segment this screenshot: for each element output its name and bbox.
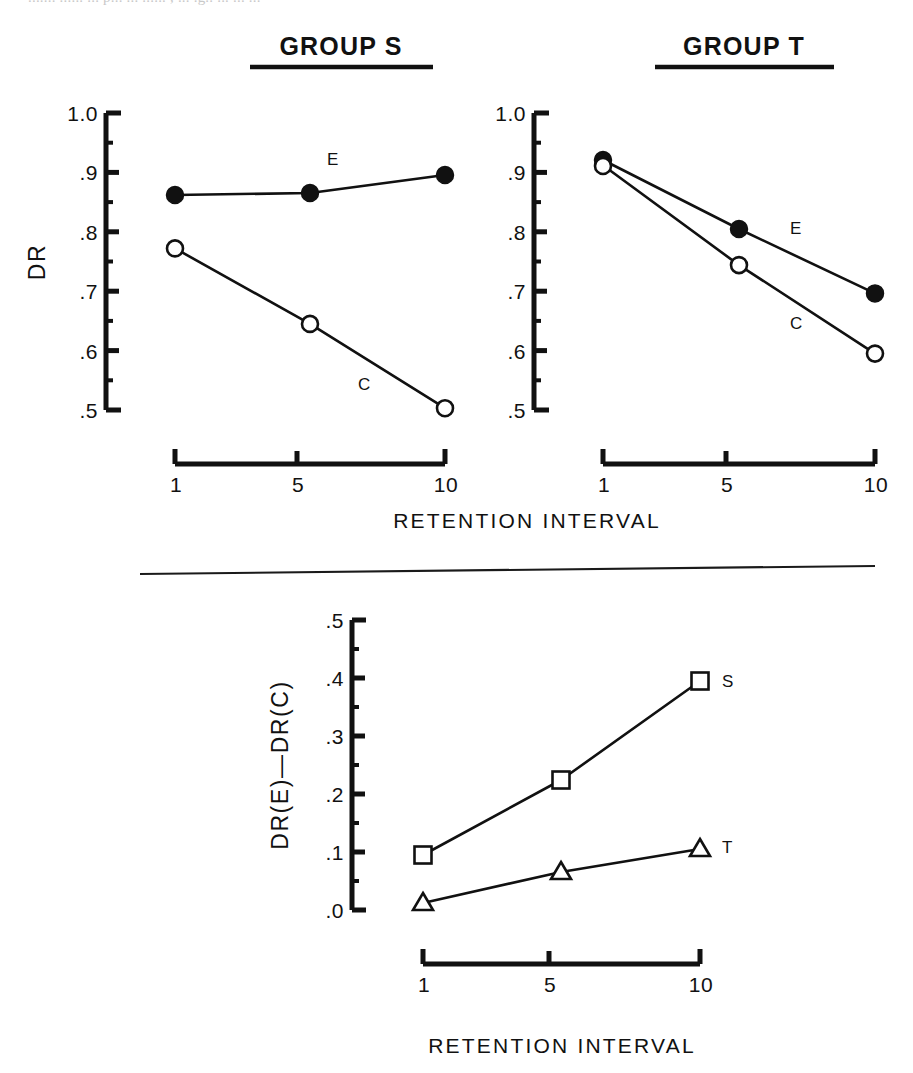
series-markers-e-group-t	[595, 152, 884, 302]
series-label-t-difference: T	[722, 838, 732, 857]
x-tick-label: 5	[721, 473, 733, 496]
data-point-marker	[437, 400, 453, 416]
series-line-s-difference	[423, 681, 700, 855]
y-tick-label: .3	[325, 725, 344, 748]
x-tick-label: 1	[598, 473, 610, 496]
x-axis-label-difference: RETENTION INTERVAL	[428, 1034, 696, 1057]
y-tick-label: .0	[325, 899, 344, 922]
data-point-marker	[731, 221, 748, 238]
y-tick-label: .5	[507, 399, 526, 422]
y-tick-label: .6	[507, 340, 526, 363]
x-tick-label: 1	[418, 973, 430, 996]
data-point-marker	[302, 316, 318, 332]
x-tick-label: 10	[434, 473, 458, 496]
y-tick-label: .2	[325, 783, 344, 806]
y-tick-label: .8	[79, 221, 98, 244]
x-axis-spine-group-t	[603, 449, 875, 464]
series-label-s-difference: S	[722, 672, 733, 691]
data-point-marker	[302, 185, 319, 202]
y-tick-label: .5	[325, 609, 344, 632]
figure-canvas: GROUP S 1.0 .9 .8 .7 .6 .5 DR	[0, 0, 913, 1073]
data-point-marker	[167, 240, 183, 256]
x-axis-spine-group-s	[175, 449, 445, 464]
y-axis-tick-labels-group-s: 1.0 .9 .8 .7 .6 .5	[67, 102, 98, 422]
x-tick-label: 10	[689, 973, 713, 996]
series-markers-t-difference	[413, 839, 710, 910]
data-point-marker	[867, 285, 884, 302]
panel-title-group-t: GROUP T	[683, 32, 805, 60]
x-tick-label: 10	[864, 473, 888, 496]
panel-title-group-s: GROUP S	[279, 32, 402, 60]
panel-difference: .5 .4 .3 .2 .1 .0 DR(E)—DR(C) S T 1 5	[267, 609, 733, 1057]
series-markers-e-group-s	[167, 167, 454, 204]
y-tick-label: .6	[79, 340, 98, 363]
y-tick-label: .4	[325, 667, 344, 690]
series-label-c-group-t: C	[790, 314, 802, 333]
x-axis-tick-labels-group-t: 1 5 10	[598, 473, 888, 496]
y-tick-label: 1.0	[67, 102, 98, 125]
data-point-marker	[415, 847, 432, 864]
y-axis-label-difference: DR(E)—DR(C)	[267, 680, 293, 850]
y-tick-label: .1	[325, 841, 344, 864]
data-point-marker	[692, 673, 709, 690]
panel-group-s: GROUP S 1.0 .9 .8 .7 .6 .5 DR	[24, 32, 458, 496]
y-axis-label-group-s: DR	[24, 244, 50, 280]
series-label-e-group-s: E	[327, 150, 338, 169]
y-tick-label: .7	[507, 280, 526, 303]
data-point-marker	[553, 772, 570, 789]
y-axis-tick-labels-difference: .5 .4 .3 .2 .1 .0	[325, 609, 344, 922]
x-tick-label: 5	[544, 973, 556, 996]
x-axis-tick-labels-difference: 1 5 10	[418, 973, 713, 996]
y-axis-tick-labels-group-t: 1.0 .9 .8 .7 .6 .5	[495, 102, 526, 422]
data-point-marker	[731, 257, 747, 273]
y-tick-label: .9	[507, 161, 526, 184]
x-tick-label: 5	[292, 473, 304, 496]
y-tick-label: .5	[79, 399, 98, 422]
section-divider-rule	[140, 566, 875, 574]
x-axis-label-top-row: RETENTION INTERVAL	[393, 509, 661, 532]
y-tick-label: .8	[507, 221, 526, 244]
y-tick-label: 1.0	[495, 102, 526, 125]
data-point-marker	[167, 187, 184, 204]
y-tick-label: .9	[79, 161, 98, 184]
data-point-marker	[867, 346, 883, 362]
series-label-c-group-s: C	[358, 375, 370, 394]
data-point-marker	[690, 839, 710, 856]
y-tick-label: .7	[79, 280, 98, 303]
data-point-marker	[437, 167, 454, 184]
series-label-e-group-t: E	[790, 219, 801, 238]
x-axis-tick-labels-group-s: 1 5 10	[170, 473, 458, 496]
panel-group-t: GROUP T 1.0 .9 .8 .7 .6 .5	[495, 32, 888, 496]
x-axis-spine-difference	[423, 949, 700, 964]
data-point-marker	[595, 158, 611, 174]
x-tick-label: 1	[170, 473, 182, 496]
